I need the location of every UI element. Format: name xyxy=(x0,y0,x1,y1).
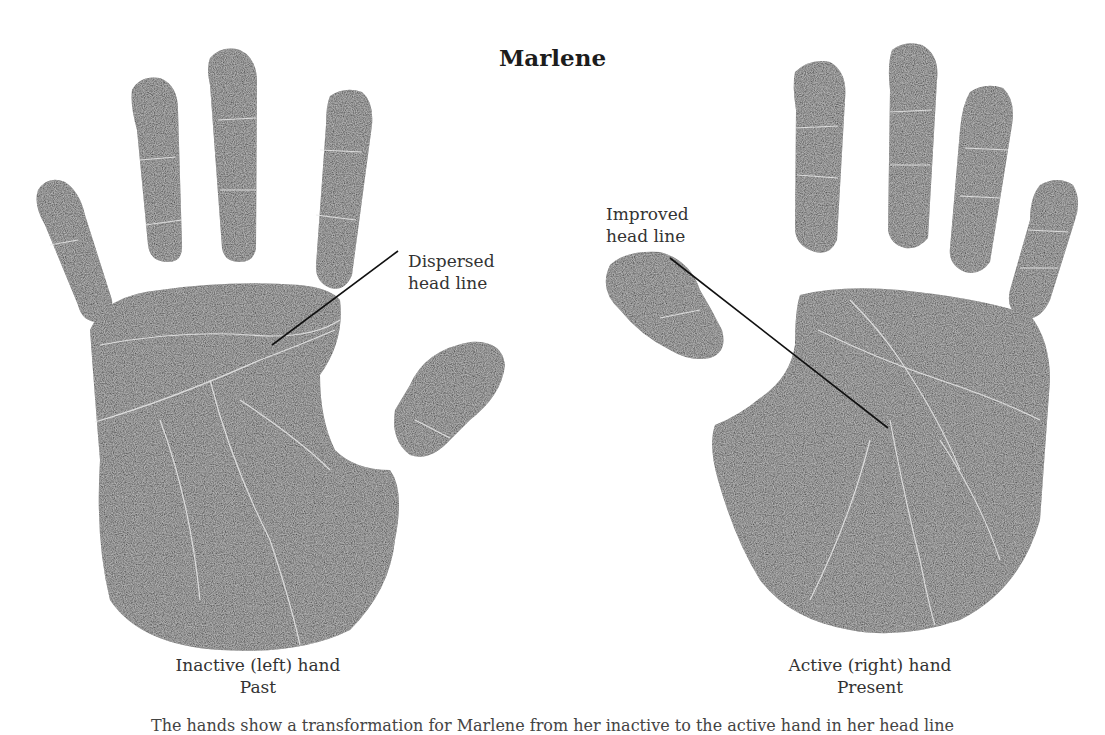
right-hand-caption: Active (right) hand Present xyxy=(720,654,1020,698)
left-hand-caption-title: Inactive (left) hand xyxy=(108,654,408,676)
right-hand-caption-title: Active (right) hand xyxy=(720,654,1020,676)
left-hand-caption: Inactive (left) hand Past xyxy=(108,654,408,698)
right-palm-print xyxy=(606,43,1078,633)
right-annotation-line2: head line xyxy=(606,225,689,247)
left-annotation-line2: head line xyxy=(408,272,495,294)
right-annotation: Improved head line xyxy=(606,203,689,247)
left-hand-caption-subtitle: Past xyxy=(108,676,408,698)
right-annotation-line1: Improved xyxy=(606,203,689,225)
right-hand-caption-subtitle: Present xyxy=(720,676,1020,698)
left-annotation-line1: Dispersed xyxy=(408,250,495,272)
left-palm-print xyxy=(37,49,505,651)
left-annotation: Dispersed head line xyxy=(408,250,495,294)
figure-caption: The hands show a transformation for Marl… xyxy=(0,716,1105,735)
